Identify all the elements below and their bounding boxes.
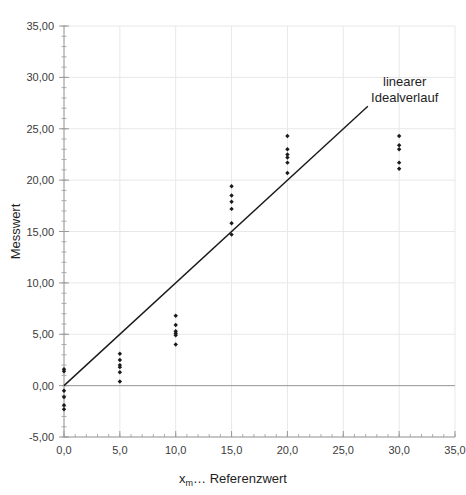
- x-tick-label: 30,0: [388, 444, 409, 456]
- x-tick-label: 10,0: [165, 444, 186, 456]
- x-axis-title-rest: … Referenzwert: [193, 471, 287, 486]
- y-tick-label: -5,00: [29, 431, 54, 443]
- y-tick-label: 20,00: [26, 174, 54, 186]
- y-tick-label: 10,00: [26, 277, 54, 289]
- x-axis-title-subscript: m: [186, 478, 194, 488]
- y-tick-label: 30,00: [26, 71, 54, 83]
- x-tick-label: 25,0: [333, 444, 354, 456]
- y-axis-title: Messwert: [8, 203, 23, 259]
- y-tick-label: 35,00: [26, 20, 54, 32]
- chart-canvas: 0,05,010,015,020,025,030,035,0 -5,000,00…: [0, 0, 466, 495]
- annotation-idealverlauf: Idealverlauf: [371, 90, 439, 105]
- x-tick-label: 5,0: [112, 444, 127, 456]
- x-axis-title: xm… Referenzwert: [179, 471, 287, 488]
- x-tick-label: 0,0: [56, 444, 71, 456]
- x-tick-label: 15,0: [221, 444, 242, 456]
- y-tick-label: 5,00: [33, 328, 54, 340]
- y-tick-label: 15,00: [26, 226, 54, 238]
- y-tick-label: 25,00: [26, 123, 54, 135]
- x-tick-label: 35,0: [444, 444, 465, 456]
- scatter-chart: 0,05,010,015,020,025,030,035,0 -5,000,00…: [0, 0, 466, 495]
- x-tick-label: 20,0: [277, 444, 298, 456]
- annotation-linearer: linearer: [383, 74, 427, 89]
- y-tick-label: 0,00: [33, 380, 54, 392]
